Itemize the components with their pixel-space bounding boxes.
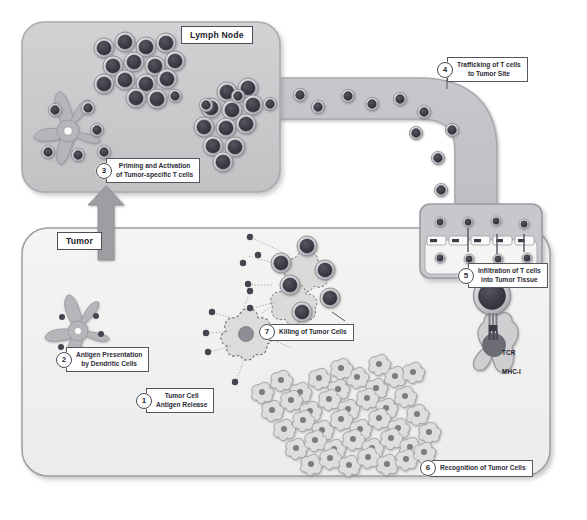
tcr-mhc-synapse	[489, 313, 499, 340]
tcr-label: TCR	[502, 349, 515, 356]
callout-step-3[interactable]: 3 Priming and Activation of Tumor-specif…	[96, 158, 200, 183]
callout-step-6[interactable]: 6 Recognition of Tumor Cells	[420, 460, 533, 477]
lymph-node-title: Lymph Node	[181, 26, 253, 44]
callout-step-1[interactable]: 1 Tumor Cell Antigen Release	[136, 388, 214, 413]
mhc1-label: MHC-I	[502, 368, 521, 375]
callout-step-2[interactable]: 2 Antigen Presentation by Dendritic Cell…	[56, 347, 149, 372]
step-label-7: Killing of Tumor Cells	[269, 324, 354, 341]
step-label-3: Priming and Activation of Tumor-specific…	[106, 158, 200, 183]
step-badge-5: 5	[458, 268, 474, 284]
step-badge-1: 1	[136, 393, 152, 409]
step-label-4: Trafficking of T cells to Tumor Site	[447, 57, 528, 82]
step-label-5: Infiltration of T cells into Tumor Tissu…	[468, 263, 548, 288]
step-badge-4: 4	[437, 62, 453, 78]
callout-step-4[interactable]: 4 Trafficking of T cells to Tumor Site	[437, 57, 528, 82]
diagram-canvas: Lymph Node Tumor TCR MHC-I 1 Tumor Cell …	[0, 0, 587, 520]
callout-step-7[interactable]: 7 Killing of Tumor Cells	[259, 324, 354, 341]
tumor-title: Tumor	[57, 232, 102, 250]
step-label-2: Antigen Presentation by Dendritic Cells	[66, 347, 149, 372]
step-badge-2: 2	[56, 352, 72, 368]
step-label-6: Recognition of Tumor Cells	[430, 460, 533, 477]
callout-step-5[interactable]: 5 Infiltration of T cells into Tumor Tis…	[458, 263, 548, 288]
step-badge-3: 3	[96, 163, 112, 179]
step-label-1: Tumor Cell Antigen Release	[146, 388, 214, 413]
endothelial-junctions	[427, 236, 534, 245]
